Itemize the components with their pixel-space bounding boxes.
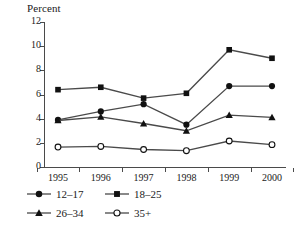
series-line <box>58 86 272 125</box>
y-axis-title: Percent <box>27 2 61 14</box>
data-point-marker <box>98 84 104 90</box>
x-tick-mark <box>79 168 80 172</box>
x-tick-mark <box>293 168 294 172</box>
data-point-marker <box>184 90 190 96</box>
legend-label: 35+ <box>134 207 151 219</box>
y-tick-label: 12 <box>31 15 41 27</box>
series-plot <box>44 22 286 168</box>
series-12-17 <box>55 83 275 128</box>
legend-label: 18–25 <box>134 188 162 200</box>
data-point-marker <box>226 47 232 53</box>
x-tick-label: 1995 <box>48 172 68 184</box>
filled-square-icon <box>104 188 130 200</box>
legend-entry[interactable]: 35+ <box>104 207 194 219</box>
filled-triangle-icon <box>26 207 52 219</box>
open-circle-icon <box>104 207 130 219</box>
x-tick-label: 1996 <box>91 172 111 184</box>
x-tick-label: 1998 <box>176 172 196 184</box>
chart-figure: Percent 024681012 1995199619971998199920… <box>0 0 306 225</box>
data-point-marker <box>55 144 61 150</box>
x-tick-mark <box>122 168 123 172</box>
data-point-marker <box>269 142 275 148</box>
data-point-marker <box>55 87 61 93</box>
legend-entry[interactable]: 26–34 <box>26 207 104 219</box>
data-point-marker <box>141 101 147 107</box>
data-point-marker <box>226 83 232 89</box>
y-tick-label: 2 <box>36 136 41 148</box>
data-point-marker <box>226 138 232 144</box>
data-point-marker <box>98 144 104 150</box>
data-point-marker <box>269 55 275 61</box>
data-point-marker <box>141 95 147 101</box>
legend-entry[interactable]: 12–17 <box>26 188 104 200</box>
series-18-25 <box>55 47 275 101</box>
x-tick-mark <box>165 168 166 172</box>
y-tick-label: 10 <box>31 39 41 51</box>
filled-circle-icon <box>26 188 52 200</box>
data-point-marker <box>269 83 275 89</box>
x-tick-label: 1999 <box>219 172 239 184</box>
y-tick-label: 8 <box>36 63 41 75</box>
x-tick-mark <box>37 168 38 172</box>
legend-label: 26–34 <box>56 207 84 219</box>
x-tick-label: 2000 <box>262 172 282 184</box>
x-tick-label: 1997 <box>134 172 154 184</box>
chart-legend: 12–1718–2526–3435+ <box>26 184 196 222</box>
data-point-marker <box>183 122 189 128</box>
series-line <box>58 50 272 98</box>
plot-area: 024681012 199519961997199819992000 <box>44 22 286 168</box>
data-point-marker <box>141 147 147 153</box>
x-tick-mark <box>251 168 252 172</box>
y-tick-label: 6 <box>36 88 41 100</box>
series-line <box>58 141 272 151</box>
series-line <box>58 115 272 131</box>
y-tick-label: 4 <box>36 112 41 124</box>
x-tick-mark <box>208 168 209 172</box>
legend-entry[interactable]: 18–25 <box>104 188 194 200</box>
data-point-marker <box>184 148 190 154</box>
legend-label: 12–17 <box>56 188 84 200</box>
series-35- <box>55 138 275 153</box>
